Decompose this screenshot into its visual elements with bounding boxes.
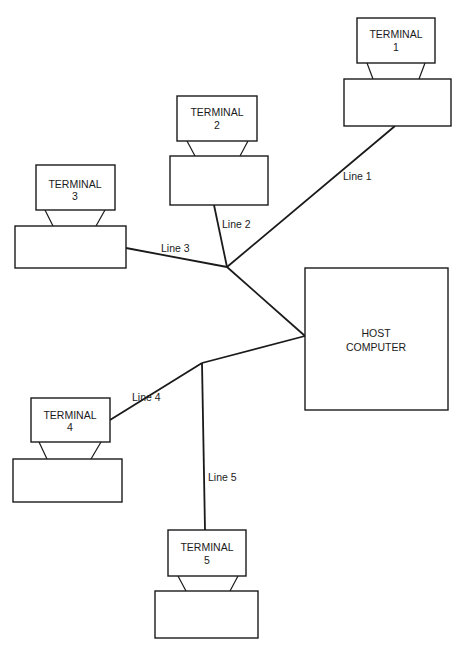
- terminal-4-name: TERMINAL: [43, 409, 96, 421]
- line-4-label: Line 4: [132, 391, 161, 403]
- terminal-4-number: 4: [67, 421, 73, 433]
- terminal-3-keyboard: [15, 226, 126, 268]
- terminal-1-name: TERMINAL: [369, 28, 422, 40]
- terminal-5-name: TERMINAL: [180, 541, 233, 553]
- terminal-5: TERMINAL 5: [155, 530, 258, 638]
- terminal-2-stand: [187, 141, 248, 156]
- terminal-1: TERMINAL 1: [344, 18, 451, 126]
- terminal-2-name: TERMINAL: [190, 106, 243, 118]
- line-2-connector: [214, 205, 227, 267]
- line-5-connector: [202, 363, 205, 530]
- terminal-5-monitor: [168, 530, 246, 576]
- terminal-3: TERMINAL 3: [15, 165, 126, 268]
- terminal-4-keyboard: [13, 459, 122, 502]
- line-3-label: Line 3: [161, 242, 190, 254]
- terminal-2-keyboard: [170, 156, 268, 205]
- line-1-label: Line 1: [343, 170, 372, 182]
- host-label-line1: HOST: [361, 327, 391, 339]
- line-5-label: Line 5: [208, 471, 237, 483]
- terminal-4-stand: [39, 442, 101, 459]
- host-to-hub-b-connector: [202, 336, 305, 363]
- terminal-5-number: 5: [204, 554, 210, 566]
- network-diagram: Line 1 Line 2 Line 3 Line 4 Line 5 HOST …: [0, 0, 465, 649]
- terminal-4: TERMINAL 4: [13, 398, 122, 502]
- terminal-3-stand: [45, 210, 105, 226]
- terminal-1-stand: [367, 63, 425, 79]
- terminal-3-name: TERMINAL: [48, 178, 101, 190]
- host-computer: HOST COMPUTER: [305, 268, 448, 410]
- host-label-line2: COMPUTER: [346, 341, 407, 353]
- terminal-5-keyboard: [155, 591, 258, 638]
- terminal-3-number: 3: [72, 190, 78, 202]
- host-computer-box: [305, 268, 448, 410]
- hub-a-to-host-connector: [227, 267, 305, 336]
- terminal-1-keyboard: [344, 79, 451, 126]
- terminal-5-stand: [178, 576, 238, 591]
- terminal-2-number: 2: [214, 119, 220, 131]
- terminal-1-number: 1: [393, 41, 399, 53]
- line-2-label: Line 2: [222, 218, 251, 230]
- terminal-2: TERMINAL 2: [170, 96, 268, 205]
